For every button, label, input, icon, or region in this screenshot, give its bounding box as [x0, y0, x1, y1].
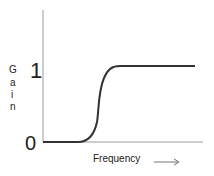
ytick-0: 0 — [25, 132, 36, 154]
gain-frequency-chart: 1 0 G a i n Frequency — [0, 0, 214, 176]
ylabel-letter: i — [11, 89, 13, 100]
ylabel-letter: G — [9, 64, 17, 75]
ytick-1: 1 — [30, 58, 42, 83]
xlabel: Frequency — [93, 153, 140, 164]
ylabel-letter: n — [10, 101, 16, 112]
gain-curve — [43, 66, 195, 142]
ylabel-letter: a — [10, 77, 16, 88]
arrow-right-icon — [154, 159, 179, 165]
